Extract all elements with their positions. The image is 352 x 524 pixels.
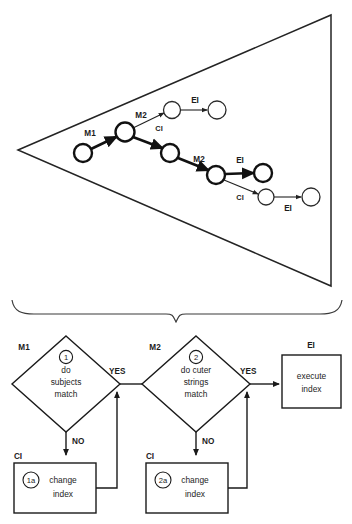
edge-label-ci-lower: CI xyxy=(236,193,243,202)
flow-decision-1[interactable]: M1 1 do subjects match xyxy=(12,336,120,432)
execute-index-box[interactable] xyxy=(282,355,341,408)
edge-label-ei-mid: EI xyxy=(236,156,244,165)
tree-node-8[interactable] xyxy=(302,188,320,206)
tree-node-6[interactable] xyxy=(254,164,272,182)
process-1a-line-2: index xyxy=(53,489,74,499)
tree-node-7[interactable] xyxy=(258,189,274,205)
flow-decision-2[interactable]: M2 2 do cuter strings match xyxy=(142,336,250,432)
edge-label-m1: M1 xyxy=(84,129,96,138)
decision-1-line-1: do xyxy=(61,365,71,375)
process-2a-line-2: index xyxy=(185,489,206,499)
execute-index-outer-label: EI xyxy=(307,341,315,350)
process-1a-box[interactable] xyxy=(14,463,96,513)
decision-1-line-3: match xyxy=(55,389,78,399)
decision-1-outer-label: M1 xyxy=(18,343,30,352)
no-label-2: NO xyxy=(202,437,215,446)
yes-label-1: YES xyxy=(109,367,126,376)
edge-label-m2-lower: M2 xyxy=(193,155,205,164)
flow-process-1a[interactable]: CI 1a change index xyxy=(14,452,96,513)
edge-m1 xyxy=(91,137,116,149)
edge-label-ei-lower: EI xyxy=(284,204,292,213)
execute-index-line-1: execute xyxy=(297,371,327,381)
decision-2-line-1: do cuter xyxy=(181,365,211,375)
no-label-1: NO xyxy=(72,437,85,446)
decision-2-outer-label: M2 xyxy=(149,343,161,352)
execute-index-line-2: index xyxy=(301,384,322,394)
decision-2-line-3: match xyxy=(185,389,208,399)
decision-1-line-2: subjects xyxy=(51,377,82,387)
process-1a-line-1: change xyxy=(49,475,77,485)
figure-root: M1 M2 CI EI M2 EI CI EI M1 1 do s xyxy=(0,0,352,524)
brace-path xyxy=(12,300,342,322)
flow-process-2a[interactable]: CI 2a change index xyxy=(146,452,228,513)
edge-ci-upper xyxy=(133,137,162,148)
process-1a-number: 1a xyxy=(27,476,36,485)
edge-label-ci-upper: CI xyxy=(155,124,162,133)
process-2a-outer-label: CI xyxy=(146,452,154,461)
flow-process-execute-index[interactable]: EI execute index xyxy=(282,341,341,408)
tree-node-1[interactable] xyxy=(116,123,135,142)
decision-flowchart: M1 1 do subjects match YES NO CI 1a chan… xyxy=(12,336,341,513)
figure-canvas: M1 M2 CI EI M2 EI CI EI M1 1 do s xyxy=(0,0,352,524)
edge-ci-lower xyxy=(224,180,258,194)
curly-brace xyxy=(12,300,342,322)
edge-label-ei-upper: EI xyxy=(191,96,199,105)
decision-1-number: 1 xyxy=(64,353,68,362)
decision-2-line-2: strings xyxy=(184,377,209,387)
process-1a-outer-label: CI xyxy=(14,452,22,461)
yes-label-2: YES xyxy=(240,367,257,376)
process-2a-line-1: change xyxy=(181,475,209,485)
decision-2-number: 2 xyxy=(194,353,198,362)
tree-node-2[interactable] xyxy=(164,102,181,119)
edge-label-m2-upper: M2 xyxy=(135,111,147,120)
feedback-path-2 xyxy=(228,392,247,488)
search-tree-triangle: M1 M2 CI EI M2 EI CI EI xyxy=(18,15,331,286)
feedback-path-1 xyxy=(96,392,117,488)
process-2a-number: 2a xyxy=(159,476,168,485)
tree-node-4[interactable] xyxy=(161,144,179,162)
tree-node-3[interactable] xyxy=(208,101,226,119)
process-2a-box[interactable] xyxy=(146,463,228,513)
edge-ei-mid xyxy=(225,173,253,174)
tree-node-5[interactable] xyxy=(207,166,225,184)
tree-node-root[interactable] xyxy=(74,144,92,162)
